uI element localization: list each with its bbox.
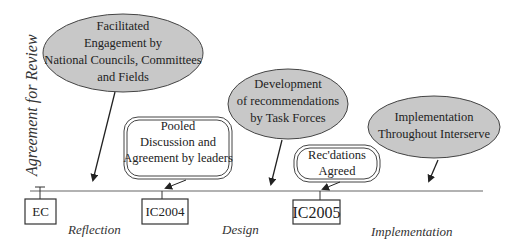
development-line-2: of recommendations	[237, 94, 340, 108]
facilitated-engagement-line-4: and Fields	[97, 70, 149, 84]
recommendations-agreed-line-1: Rec'dations	[308, 148, 366, 162]
pooled-discussion-line-2: Discussion and	[140, 135, 217, 149]
implementation-line-2: Throughout Interserve	[378, 127, 491, 141]
arrow-reflection	[93, 92, 115, 180]
phase-reflection-label: Reflection	[67, 222, 121, 237]
milestone-ec: EC	[25, 187, 56, 224]
recommendations-agreed-line-2: Agreed	[319, 164, 357, 178]
pooled-discussion-line-1: Pooled	[161, 119, 196, 133]
arrow-to-ic2005	[323, 182, 340, 189]
development-line-3: by Task Forces	[250, 111, 325, 125]
phase-implementation-label: Implementation	[370, 224, 453, 239]
agreement-for-review-label: Agreement for Review	[23, 34, 41, 177]
facilitated-engagement-line-1: Facilitated	[97, 19, 151, 33]
facilitated-engagement-line-3: National Councils, Committees	[44, 53, 201, 67]
milestone-ic2004-label: IC2004	[146, 204, 186, 219]
development-line-1: Development	[254, 77, 322, 91]
implementation-throughout-node: Implementation Throughout Interserve	[368, 96, 500, 158]
milestone-ec-label: EC	[32, 204, 49, 219]
arrow-implementation	[429, 160, 438, 181]
implementation-line-1: Implementation	[394, 110, 474, 124]
recommendations-agreed-node: Rec'dations Agreed	[294, 145, 380, 182]
development-recommendations-node: Development of recommendations by Task F…	[228, 69, 348, 139]
arrow-design	[271, 140, 282, 184]
arrow-to-ic2004	[166, 180, 186, 188]
milestone-ic2005-label: IC2005	[293, 204, 341, 221]
pooled-discussion-line-3: Agreement by leaders	[123, 151, 233, 165]
phase-design-label: Design	[221, 222, 259, 237]
milestone-ic2004: IC2004	[142, 191, 188, 224]
facilitated-engagement-node: Facilitated Engagement by National Counc…	[43, 14, 203, 92]
facilitated-engagement-line-2: Engagement by	[84, 36, 163, 50]
pooled-discussion-node: Pooled Discussion and Agreement by leade…	[123, 117, 233, 179]
milestone-ic2005: IC2005	[293, 191, 341, 224]
process-diagram: Agreement for Review Facilitated Engagem…	[0, 0, 521, 250]
